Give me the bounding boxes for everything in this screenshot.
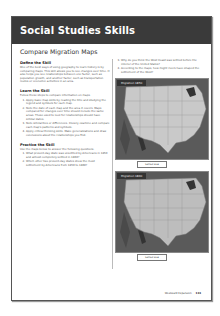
map-legend: Settled area xyxy=(137,254,167,261)
map-legend: Settled area xyxy=(137,161,167,168)
learn-step: Apply critical thinking skills. Make gen… xyxy=(26,130,110,137)
define-text: One of the best ways of using geography … xyxy=(20,66,110,84)
us-map-icon xyxy=(116,79,208,159)
define-section: Define the Skill One of the best ways of… xyxy=(20,61,110,84)
footer-section: Westward Expansion xyxy=(165,292,192,295)
right-question: According to the maps, how might rivers … xyxy=(121,67,207,74)
practice-section: Practice the Skill Use the maps below to… xyxy=(20,143,110,168)
page-number: 133 xyxy=(196,292,201,295)
page-header: Social Studies Skills xyxy=(12,17,211,44)
page-subtitle: Compare Migration Maps xyxy=(12,44,211,57)
learn-steps: Apply basic map skills by reading the ti… xyxy=(20,99,110,138)
practice-question: What present-day state was unsettled by … xyxy=(26,152,110,159)
page-footer: Westward Expansion133 xyxy=(165,292,201,295)
migration-map-1860: Migration 1860 xyxy=(115,171,209,253)
left-column: Define the Skill One of the best ways of… xyxy=(20,59,110,172)
learn-section: Learn the Skill Follow these steps to co… xyxy=(20,89,110,138)
migration-map-1850: Migration 1850 xyxy=(115,78,209,160)
column-divider xyxy=(112,59,113,269)
right-column: Why do you think the West Coast was sett… xyxy=(115,59,207,264)
right-question: Why do you think the West Coast was sett… xyxy=(121,59,207,66)
practice-question: Which other two present-day states show … xyxy=(26,160,110,167)
map-title: Migration 1860 xyxy=(117,173,146,179)
right-questions: Why do you think the West Coast was sett… xyxy=(115,59,207,74)
learn-step: Note the date of each map and the area i… xyxy=(26,107,110,121)
learn-step: Apply basic map skills by reading the ti… xyxy=(26,99,110,106)
map-title: Migration 1850 xyxy=(117,80,146,86)
learn-step: Note similarities or differences. Closel… xyxy=(26,122,110,129)
practice-heading: Practice the Skill xyxy=(20,143,110,147)
us-map-icon xyxy=(116,172,208,252)
practice-questions: What present-day state was unsettled by … xyxy=(20,152,110,167)
textbook-page: Social Studies Skills Compare Migration … xyxy=(11,16,212,301)
